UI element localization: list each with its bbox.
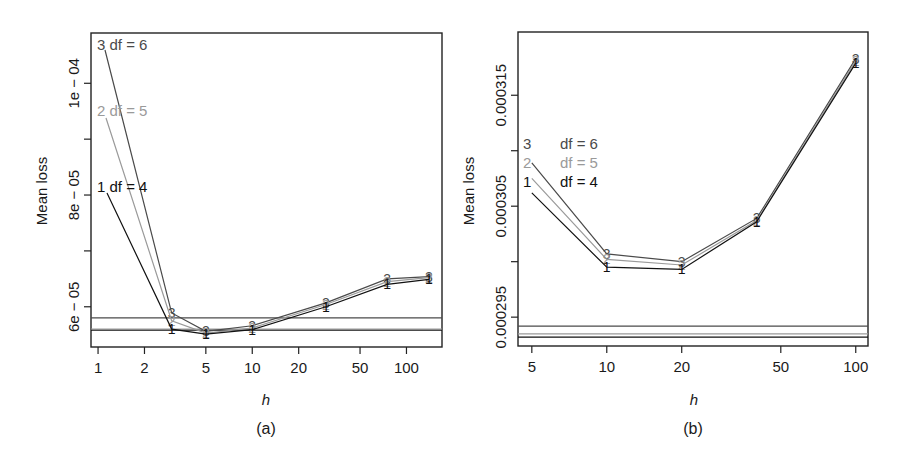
series-marker: 1 <box>678 261 686 277</box>
y-tick-label: 0.000315 <box>492 64 509 127</box>
panel-b-caption: (b) <box>683 420 703 437</box>
x-tick-label: 100 <box>394 359 419 376</box>
x-tick-label: 1 <box>94 359 102 376</box>
x-tick-label: 10 <box>598 358 615 375</box>
series-marker: 1 <box>852 55 860 71</box>
x-tick-label: 10 <box>244 359 261 376</box>
panel-a-ylabel: Mean loss <box>33 157 50 225</box>
x-tick-label: 50 <box>352 359 369 376</box>
series-line <box>106 118 429 333</box>
panel-a-chart: 1251020501006e − 058e − 051e − 043333332… <box>65 33 442 376</box>
y-tick-label: 8e − 05 <box>65 170 82 220</box>
x-tick-label: 5 <box>528 358 536 375</box>
series-marker: 1 <box>322 299 330 315</box>
series-marker: 1 <box>202 326 210 342</box>
series-marker: 1 <box>168 321 176 337</box>
panel-b-chart: 51020501000.0002950.0003050.000315333322… <box>492 32 868 375</box>
plot-area: 333333222222111111 <box>91 50 442 342</box>
legend-marker: 1 <box>523 173 531 190</box>
y-tick-label: 1e − 04 <box>65 58 82 108</box>
legend-label: df = 5 <box>560 154 598 171</box>
panel-a-xlabel: h <box>262 391 270 408</box>
series-line <box>107 193 429 334</box>
x-tick-label: 5 <box>202 359 210 376</box>
legend-marker: 3 <box>523 135 531 152</box>
legend-item: 2 df = 5 <box>97 102 147 119</box>
series-marker: 1 <box>425 271 433 287</box>
series-marker: 1 <box>603 259 611 275</box>
legend-marker: 2 <box>523 154 531 171</box>
y-tick-label: 6e − 05 <box>65 282 82 332</box>
legend-item: 1 df = 4 <box>97 178 147 195</box>
panel-a-caption: (a) <box>256 420 276 437</box>
legend-label: df = 4 <box>560 173 598 190</box>
x-tick-label: 2 <box>140 359 148 376</box>
series-line <box>105 50 429 331</box>
series-marker: 1 <box>383 276 391 292</box>
series-marker: 1 <box>753 214 761 230</box>
y-tick-label: 0.000295 <box>492 286 509 349</box>
panel-b-xlabel: h <box>690 391 698 408</box>
y-tick-label: 0.000305 <box>492 175 509 238</box>
figure: 1251020501006e − 058e − 051e − 043333332… <box>0 0 901 459</box>
legend-label: df = 6 <box>560 135 598 152</box>
x-tick-label: 100 <box>843 358 868 375</box>
x-tick-label: 50 <box>772 358 789 375</box>
x-tick-label: 20 <box>290 359 307 376</box>
series-marker: 1 <box>248 322 256 338</box>
panel-b-ylabel: Mean loss <box>460 157 477 225</box>
plot-area: 333322221111 <box>518 51 868 337</box>
x-tick-label: 20 <box>673 358 690 375</box>
legend-item: 3 df = 6 <box>97 36 147 53</box>
